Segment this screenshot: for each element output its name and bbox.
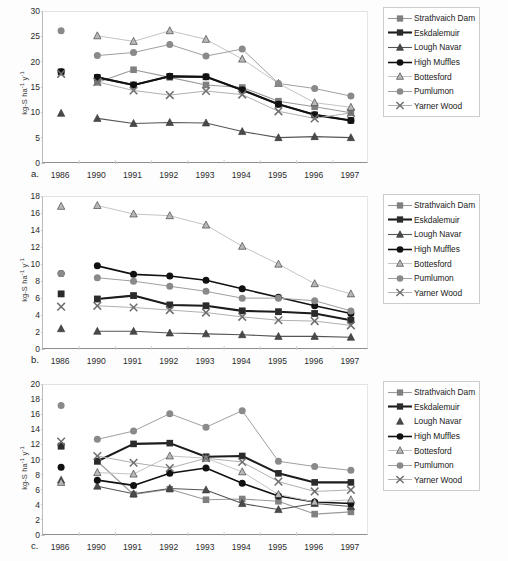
panel-b-y-tick: 18 bbox=[31, 191, 40, 201]
legend-label: Yarner Wood bbox=[413, 101, 462, 111]
legend-label: Yarner Wood bbox=[413, 288, 462, 298]
legend-marker-circle-icon bbox=[387, 430, 413, 443]
legend-marker-square-icon bbox=[387, 386, 413, 399]
panel-c-plot-area bbox=[42, 384, 368, 535]
legend-marker-circle-icon bbox=[387, 459, 413, 472]
panel-b-x-tick-1990: 1990 bbox=[87, 356, 106, 366]
legend-item-yarner-wood[interactable]: Yarner Wood bbox=[387, 99, 475, 114]
legend-item-bottesford[interactable]: Bottesford bbox=[387, 256, 475, 271]
legend-label: Pumlumon bbox=[413, 86, 454, 96]
legend-label: Eskdalemuir bbox=[413, 215, 460, 225]
panel-c-x-tick-1992: 1992 bbox=[159, 542, 178, 552]
panel-c-y-tick: 16 bbox=[31, 409, 40, 419]
panel-b-label: b. bbox=[31, 354, 39, 365]
panel-a-y-tick: 25 bbox=[31, 31, 40, 41]
legend-item-lough-navar[interactable]: Lough Navar bbox=[387, 227, 475, 242]
legend-label: Yarner Wood bbox=[413, 475, 462, 485]
panel-c-y-tick-labels: 02468101214161820 bbox=[14, 384, 40, 535]
legend-item-strathvaich-dam[interactable]: Strathvaich Dam bbox=[387, 198, 475, 213]
panel-b-y-tick: 4 bbox=[35, 310, 40, 320]
panel-a-y-tick: 0 bbox=[35, 158, 40, 168]
panel-a-label: a. bbox=[31, 168, 39, 179]
panel-c-legend: Strathvaich DamEskdalemuirLough NavarHig… bbox=[383, 381, 480, 491]
legend-label: Bottesford bbox=[413, 446, 452, 456]
legend-item-yarner-wood[interactable]: Yarner Wood bbox=[387, 473, 475, 488]
panel-b-x-tick-1993: 1993 bbox=[196, 356, 215, 366]
panel-a-x-tick-1992: 1992 bbox=[159, 170, 178, 180]
panel-c-x-tick-1990: 1990 bbox=[87, 542, 106, 552]
legend-marker-circle-icon bbox=[387, 56, 413, 69]
legend-item-high-muffles[interactable]: High Muffles bbox=[387, 429, 475, 444]
legend-item-lough-navar[interactable]: Lough Navar bbox=[387, 40, 475, 55]
panel-c-label: c. bbox=[31, 540, 38, 551]
panel-c: kg-S ha-1 y-1 02468101214161820 19861990… bbox=[0, 374, 508, 561]
legend-marker-square-icon bbox=[387, 12, 413, 25]
panel-c-y-tick: 0 bbox=[35, 530, 40, 540]
panel-a-y-tick: 10 bbox=[31, 107, 40, 117]
panel-a-y-tick: 30 bbox=[31, 6, 40, 16]
legend-label: Pumlumon bbox=[413, 273, 454, 283]
legend-item-eskdalemuir[interactable]: Eskdalemuir bbox=[387, 26, 475, 41]
legend-marker-circle-icon bbox=[387, 85, 413, 98]
panel-c-x-tick-1991: 1991 bbox=[123, 542, 142, 552]
panel-a-x-tick-1994: 1994 bbox=[232, 170, 251, 180]
panel-c-y-tick: 8 bbox=[35, 470, 40, 480]
legend-marker-triangle-icon bbox=[387, 444, 413, 457]
panel-c-x-tick-1993: 1993 bbox=[196, 542, 215, 552]
panel-b-y-tick: 8 bbox=[35, 276, 40, 286]
legend-marker-circle-icon bbox=[387, 272, 413, 285]
legend-marker-cross-icon bbox=[387, 286, 413, 299]
legend-item-bottesford[interactable]: Bottesford bbox=[387, 443, 475, 458]
panel-b-x-tick-1991: 1991 bbox=[123, 356, 142, 366]
panel-b-x-tick-1994: 1994 bbox=[232, 356, 251, 366]
panel-a-x-tick-1993: 1993 bbox=[196, 170, 215, 180]
panel-b-y-tick: 14 bbox=[31, 225, 40, 235]
legend-item-high-muffles[interactable]: High Muffles bbox=[387, 55, 475, 70]
panel-a-x-tick-1990: 1990 bbox=[87, 170, 106, 180]
panel-a-y-tick: 5 bbox=[35, 133, 40, 143]
panel-a-plot-area bbox=[42, 11, 368, 163]
panel-c-y-tick: 12 bbox=[31, 439, 40, 449]
legend-item-lough-navar[interactable]: Lough Navar bbox=[387, 414, 475, 429]
panel-c-y-tick: 20 bbox=[31, 379, 40, 389]
legend-marker-triangle-icon bbox=[387, 41, 413, 54]
panel-b-y-tick: 2 bbox=[35, 327, 40, 337]
panel-a: kg-S ha-1 y-1 051015202530 1986199019911… bbox=[0, 0, 508, 186]
legend-marker-square-icon bbox=[387, 213, 413, 226]
legend-item-pumlumon[interactable]: Pumlumon bbox=[387, 271, 475, 286]
legend-marker-triangle-icon bbox=[387, 228, 413, 241]
panel-b-plot-area bbox=[42, 196, 368, 349]
legend-marker-square-icon bbox=[387, 26, 413, 39]
figure-root: kg-S ha-1 y-1 051015202530 1986199019911… bbox=[0, 0, 508, 561]
panel-c-y-tick: 2 bbox=[35, 515, 40, 525]
legend-item-pumlumon[interactable]: Pumlumon bbox=[387, 84, 475, 99]
legend-item-eskdalemuir[interactable]: Eskdalemuir bbox=[387, 400, 475, 415]
panel-b-y-tick: 12 bbox=[31, 242, 40, 252]
legend-marker-triangle-icon bbox=[387, 257, 413, 270]
legend-item-bottesford[interactable]: Bottesford bbox=[387, 69, 475, 84]
panel-b-x-tick-1997: 1997 bbox=[340, 356, 359, 366]
legend-item-pumlumon[interactable]: Pumlumon bbox=[387, 458, 475, 473]
legend-item-strathvaich-dam[interactable]: Strathvaich Dam bbox=[387, 385, 475, 400]
panel-b-y-tick: 0 bbox=[35, 344, 40, 354]
legend-item-high-muffles[interactable]: High Muffles bbox=[387, 242, 475, 257]
legend-item-yarner-wood[interactable]: Yarner Wood bbox=[387, 286, 475, 301]
panel-c-y-tick: 14 bbox=[31, 424, 40, 434]
panel-b-x-tick-1992: 1992 bbox=[159, 356, 178, 366]
panel-c-x-tick-1995: 1995 bbox=[268, 542, 287, 552]
panel-a-y-tick-labels: 051015202530 bbox=[14, 11, 40, 163]
panel-b-x-tick-1996: 1996 bbox=[304, 356, 323, 366]
panel-a-x-tick-1991: 1991 bbox=[123, 170, 142, 180]
legend-label: High Muffles bbox=[413, 431, 460, 441]
legend-marker-square-icon bbox=[387, 199, 413, 212]
legend-item-strathvaich-dam[interactable]: Strathvaich Dam bbox=[387, 11, 475, 26]
legend-item-eskdalemuir[interactable]: Eskdalemuir bbox=[387, 213, 475, 228]
legend-label: Eskdalemuir bbox=[413, 402, 460, 412]
legend-label: High Muffles bbox=[413, 244, 460, 254]
panel-c-x-tick-1997: 1997 bbox=[340, 542, 359, 552]
panel-c-y-tick: 10 bbox=[31, 455, 40, 465]
panel-b-y-tick: 10 bbox=[31, 259, 40, 269]
panel-b-y-tick: 6 bbox=[35, 293, 40, 303]
panel-c-x-tick-1996: 1996 bbox=[304, 542, 323, 552]
legend-marker-cross-icon bbox=[387, 99, 413, 112]
